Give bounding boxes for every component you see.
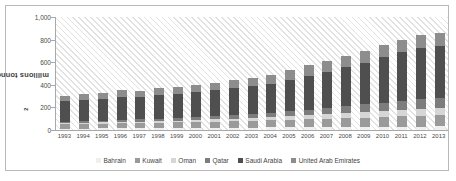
bar-column[interactable] xyxy=(266,75,276,130)
bar-segment xyxy=(341,106,351,113)
bar-segment xyxy=(79,100,89,121)
bar-column[interactable] xyxy=(304,65,314,130)
x-axis-tick-label: 2012 xyxy=(413,133,426,139)
bar-segment xyxy=(416,35,426,48)
x-axis-tick-label: 2013 xyxy=(432,133,445,139)
bar-segment xyxy=(248,78,258,86)
bar-column[interactable] xyxy=(60,96,70,130)
legend-label: Saudi Arabia xyxy=(245,157,282,164)
x-axis-tick-label: 2002 xyxy=(226,133,239,139)
y-axis-tick-label: 800 xyxy=(40,36,51,43)
bar-segment xyxy=(379,117,389,127)
bar-segment xyxy=(285,80,295,111)
legend-swatch-icon xyxy=(291,158,296,163)
x-axis-tick-label: 2006 xyxy=(301,133,314,139)
legend-label: Bahrain xyxy=(103,157,125,164)
bar-segment xyxy=(379,103,389,112)
chart-frame: millions tonnes CO2 02004006008001,000 1… xyxy=(5,5,449,171)
bar-segment xyxy=(341,56,351,67)
y-axis-tick-mark xyxy=(51,40,55,41)
y-axis-tick-labels: 02004006008001,000 xyxy=(26,14,54,130)
bar-segment xyxy=(304,65,314,75)
x-axis-tick-labels: 1993199419951996199719981999200020012002… xyxy=(55,132,448,144)
bar-segment xyxy=(154,95,164,119)
bar-segment xyxy=(173,94,183,118)
legend-item[interactable]: Oman xyxy=(171,157,196,164)
legend-item[interactable]: Qatar xyxy=(205,157,229,164)
bar-segment xyxy=(285,70,295,80)
x-axis-tick-label: 1993 xyxy=(58,133,71,139)
bar-column[interactable] xyxy=(248,78,258,130)
bar-segment xyxy=(435,33,445,47)
bar-segment xyxy=(117,90,127,97)
y-axis-tick-mark xyxy=(51,130,55,131)
bar-column[interactable] xyxy=(379,45,389,130)
bar-column[interactable] xyxy=(397,40,407,130)
bar-segment xyxy=(322,119,332,127)
legend-swatch-icon xyxy=(238,158,243,163)
y-axis-tick-label: 200 xyxy=(40,104,51,111)
x-axis-tick-label: 1995 xyxy=(95,133,108,139)
bar-segment xyxy=(397,101,407,110)
bar-column[interactable] xyxy=(154,88,164,130)
y-axis-tick-mark xyxy=(51,107,55,108)
bar-segment xyxy=(341,118,351,127)
y-axis-tick-label: 1,000 xyxy=(35,14,51,21)
bar-segment xyxy=(360,118,370,127)
bar-segment xyxy=(304,119,314,127)
legend-swatch-icon xyxy=(96,158,101,163)
bar-segment xyxy=(322,61,332,72)
legend-item[interactable]: Saudi Arabia xyxy=(238,157,282,164)
x-axis-tick-label: 1997 xyxy=(133,133,146,139)
y-axis-tick-mark xyxy=(51,17,55,18)
bar-column[interactable] xyxy=(360,51,370,130)
legend-item[interactable]: United Arab Emirates xyxy=(291,157,360,164)
legend-swatch-icon xyxy=(135,158,140,163)
bar-column[interactable] xyxy=(210,83,220,130)
bar-column[interactable] xyxy=(435,33,445,130)
bar-segment xyxy=(435,98,445,108)
bar-column[interactable] xyxy=(229,80,239,130)
bar-segment xyxy=(416,109,426,116)
bar-segment xyxy=(416,48,426,99)
bar-segment xyxy=(135,97,145,120)
y-axis-title: millions tonnes CO2 xyxy=(12,24,26,128)
legend-label: Kuwait xyxy=(142,157,162,164)
legend-item[interactable]: Kuwait xyxy=(135,157,162,164)
bar-column[interactable] xyxy=(79,94,89,130)
bar-column[interactable] xyxy=(322,61,332,130)
x-axis-tick-label: 2001 xyxy=(207,133,220,139)
legend-item[interactable]: Bahrain xyxy=(96,157,126,164)
bar-segment xyxy=(397,40,407,52)
bar-segment xyxy=(210,83,220,90)
bar-segment xyxy=(416,99,426,109)
bar-segment xyxy=(435,46,445,97)
bar-segment xyxy=(191,85,201,92)
bar-segment xyxy=(229,80,239,88)
bar-column[interactable] xyxy=(191,85,201,130)
bar-segment xyxy=(266,75,276,84)
bar-segment xyxy=(266,120,276,127)
bar-column[interactable] xyxy=(98,93,108,130)
bar-segment xyxy=(360,63,370,105)
bar-segment xyxy=(154,88,164,95)
bar-segment xyxy=(341,67,351,106)
bar-column[interactable] xyxy=(341,56,351,130)
bar-segment xyxy=(397,52,407,101)
bar-segment xyxy=(304,76,314,110)
x-axis-tick-label: 2003 xyxy=(245,133,258,139)
bar-segment xyxy=(435,115,445,126)
bar-segment xyxy=(191,92,201,117)
bar-column[interactable] xyxy=(117,90,127,130)
bar-segment xyxy=(229,88,239,115)
bar-column[interactable] xyxy=(416,35,426,130)
x-axis-tick-label: 2005 xyxy=(282,133,295,139)
bar-segment xyxy=(248,86,258,114)
bar-segment xyxy=(210,90,220,116)
x-axis-tick-label: 2011 xyxy=(395,133,408,139)
bar-segment xyxy=(60,101,70,121)
bar-column[interactable] xyxy=(285,70,295,130)
bar-column[interactable] xyxy=(173,87,183,130)
bar-segment xyxy=(285,120,295,127)
bar-column[interactable] xyxy=(135,91,145,131)
